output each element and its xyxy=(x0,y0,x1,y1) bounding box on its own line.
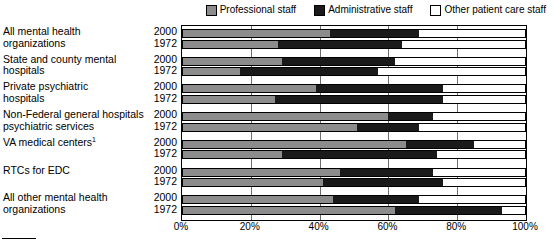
bar-segment-professional xyxy=(182,84,316,93)
bar-segment-administrative xyxy=(388,112,433,121)
bar-segment-other xyxy=(443,178,526,187)
legend-item-label: Other patient care staff xyxy=(444,5,546,15)
bar-segment-administrative xyxy=(316,84,443,93)
bar-segment-other xyxy=(378,67,526,76)
year-label: 1972 xyxy=(151,148,177,160)
category-label: RTCs for EDC xyxy=(3,165,148,177)
category-label-column: All mental healthorganizations20001972St… xyxy=(0,25,181,219)
bar-row xyxy=(182,140,526,149)
bar-row xyxy=(182,195,526,204)
x-axis-tick-label: 60% xyxy=(377,221,397,232)
bar-segment-administrative xyxy=(357,123,419,132)
bar-segment-professional xyxy=(182,195,333,204)
bar-segment-professional xyxy=(182,206,395,215)
category-label-line: hospitals xyxy=(3,93,148,105)
legend-item-label: Professional staff xyxy=(220,5,297,15)
bar-row xyxy=(182,206,526,215)
category-label: Private psychiatrichospitals xyxy=(3,81,148,104)
bar-segment-administrative xyxy=(395,206,502,215)
bar-segment-administrative xyxy=(282,150,437,159)
category-label: VA medical centers1 xyxy=(3,137,148,149)
bar-segment-other xyxy=(419,123,526,132)
bar-segment-professional xyxy=(182,67,240,76)
category-label-line: psychiatric services xyxy=(3,121,148,133)
bar-segment-professional xyxy=(182,178,323,187)
bar-row xyxy=(182,150,526,159)
bar-row xyxy=(182,123,526,132)
year-label-group: 20001972 xyxy=(151,54,177,77)
x-axis-tick-label: 80% xyxy=(446,221,466,232)
bar-segment-other xyxy=(437,150,526,159)
year-label: 1972 xyxy=(151,204,177,216)
bar-segment-other xyxy=(419,29,526,38)
bar-segment-administrative xyxy=(240,67,378,76)
x-axis: 0%20%40%60%80%100% xyxy=(181,221,527,235)
bar-row xyxy=(182,168,526,177)
bar-segment-professional xyxy=(182,57,282,66)
bar-segment-administrative xyxy=(282,57,396,66)
bar-segment-administrative xyxy=(330,29,419,38)
category-label-line: RTCs for EDC xyxy=(3,165,148,177)
bar-segment-administrative xyxy=(340,168,433,177)
year-label: 1972 xyxy=(151,93,177,105)
year-label-group: 20001972 xyxy=(151,192,177,215)
bar-segment-professional xyxy=(182,95,275,104)
year-label-group: 20001972 xyxy=(151,165,177,188)
category-label-line: Non-Federal general hospitals xyxy=(3,109,148,121)
category-label: State and county mentalhospitals xyxy=(3,54,148,77)
category-label-line: organizations xyxy=(3,38,148,50)
category-label: Non-Federal general hospitalspsychiatric… xyxy=(3,109,148,132)
year-label-group: 20001972 xyxy=(151,81,177,104)
bar-segment-other xyxy=(502,206,526,215)
legend-item: Other patient care staff xyxy=(430,5,546,16)
year-label: 2000 xyxy=(151,26,177,38)
bar-segment-other xyxy=(395,57,526,66)
bar-row xyxy=(182,178,526,187)
square-swatch-black-icon xyxy=(314,5,325,16)
square-swatch-gray-icon xyxy=(206,5,217,16)
bar-segment-other xyxy=(443,84,526,93)
bar-segment-administrative xyxy=(333,195,419,204)
bar-segment-administrative xyxy=(406,140,475,149)
year-label: 1972 xyxy=(151,176,177,188)
bar-segment-professional xyxy=(182,140,406,149)
footnote-marker: 1 xyxy=(92,135,96,142)
x-axis-tick-label: 100% xyxy=(512,221,538,232)
bar-row xyxy=(182,29,526,38)
legend-item: Professional staff xyxy=(206,5,297,16)
bar-segment-professional xyxy=(182,29,330,38)
year-label-group: 20001972 xyxy=(151,137,177,160)
bar-row xyxy=(182,57,526,66)
year-label-group: 20001972 xyxy=(151,26,177,49)
year-label: 2000 xyxy=(151,109,177,121)
legend-item-label: Administrative staff xyxy=(328,5,412,15)
chart-legend: Professional staffAdministrative staffOt… xyxy=(0,0,554,20)
bar-segment-professional xyxy=(182,123,357,132)
x-axis-tick-label: 0% xyxy=(174,221,188,232)
bar-segment-other xyxy=(419,195,526,204)
bar-segment-professional xyxy=(182,112,388,121)
category-label: All mental healthorganizations xyxy=(3,26,148,49)
bar-segment-administrative xyxy=(275,95,444,104)
category-label-line: All mental health xyxy=(3,26,148,38)
bar-segment-administrative xyxy=(323,178,443,187)
x-axis-tick-label: 20% xyxy=(240,221,260,232)
category-label-line: VA medical centers1 xyxy=(3,137,148,149)
bar-row xyxy=(182,112,526,121)
category-label-line: hospitals xyxy=(3,65,148,77)
bar-row xyxy=(182,40,526,49)
plot-area xyxy=(181,25,527,221)
year-label: 1972 xyxy=(151,38,177,50)
bar-segment-professional xyxy=(182,150,282,159)
bar-segment-professional xyxy=(182,168,340,177)
legend-item: Administrative staff xyxy=(314,5,412,16)
bar-segment-other xyxy=(402,40,526,49)
year-label-group: 20001972 xyxy=(151,109,177,132)
category-label: All other mental healthorganizations xyxy=(3,192,148,215)
bar-segment-other xyxy=(433,112,526,121)
footnote-rule xyxy=(2,238,36,239)
category-label-line: organizations xyxy=(3,204,148,216)
bar-row xyxy=(182,95,526,104)
bar-segment-professional xyxy=(182,40,278,49)
x-axis-tick-label: 40% xyxy=(309,221,329,232)
